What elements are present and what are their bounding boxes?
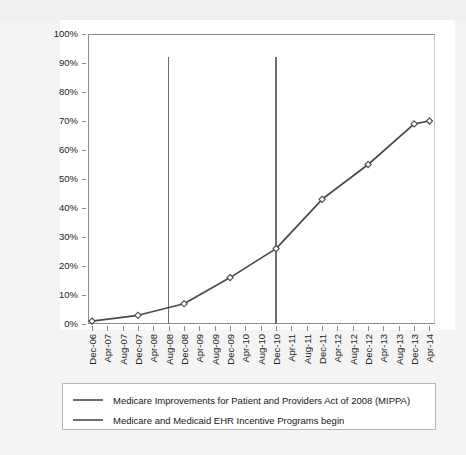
x-tick-label: Dec-06 (87, 334, 98, 365)
x-tick-mark (245, 326, 246, 331)
x-tick-label: Apr-07 (102, 334, 113, 363)
x-tick-label: Aug-13 (394, 334, 405, 365)
x-tick-mark (92, 326, 93, 331)
x-tick-label: Apr-12 (332, 334, 343, 363)
x-tick-label: Apr-08 (148, 334, 159, 363)
y-axis: 0%10%20%30%40%50%60%70%80%90%100% (34, 26, 86, 332)
x-tick-mark (169, 326, 170, 331)
y-tick-label: 0% (64, 319, 78, 329)
y-tick-label: 60% (59, 145, 78, 155)
x-tick-mark (261, 326, 262, 331)
x-tick-mark (138, 326, 139, 331)
y-tick-mark (82, 63, 86, 64)
legend-line-swatch-mippa (73, 399, 103, 401)
x-tick-mark (399, 326, 400, 331)
x-tick-label: Dec-11 (317, 334, 328, 364)
x-tick-label: Aug-12 (348, 334, 359, 365)
legend-item-mippa: Medicare Improvements for Patient and Pr… (73, 393, 410, 407)
y-tick-label: 80% (59, 87, 78, 97)
y-tick-mark (82, 179, 86, 180)
x-tick-mark (383, 326, 384, 331)
x-tick-label: Apr-11 (286, 334, 297, 362)
x-tick-label: Dec-10 (271, 334, 282, 365)
y-tick-mark (82, 121, 86, 122)
y-tick-label: 30% (59, 232, 78, 242)
x-tick-mark (429, 326, 430, 331)
data-point-marker (426, 118, 432, 124)
x-tick-label: Dec-09 (225, 334, 236, 365)
x-tick-mark (123, 326, 124, 331)
x-tick-mark (368, 326, 369, 331)
y-tick-label: 50% (59, 174, 78, 184)
y-tick-mark (82, 237, 86, 238)
legend-label-ehr-incentive: Medicare and Medicaid EHR Incentive Prog… (113, 415, 344, 426)
y-tick-label: 10% (59, 290, 78, 300)
x-tick-label: Aug-10 (256, 334, 267, 365)
y-tick-mark (82, 324, 86, 325)
x-tick-label: Apr-09 (194, 334, 205, 363)
x-tick-mark (107, 326, 108, 331)
chart-legend: Medicare Improvements for Patient and Pr… (62, 383, 436, 430)
x-tick-mark (307, 326, 308, 331)
y-tick-label: 20% (59, 261, 78, 271)
y-tick-mark (82, 295, 86, 296)
x-tick-mark (353, 326, 354, 331)
x-tick-mark (414, 326, 415, 331)
figure-caption (0, 437, 466, 455)
series-line (92, 121, 429, 321)
x-tick-label: Aug-11 (302, 334, 313, 364)
y-tick-label: 90% (59, 58, 78, 68)
y-tick-label: 100% (54, 29, 78, 39)
x-tick-label: Apr-14 (424, 334, 435, 363)
x-tick-label: Aug-08 (164, 334, 175, 365)
figure-top-band (0, 0, 466, 22)
data-point-marker (89, 318, 95, 324)
data-series (88, 34, 435, 324)
x-tick-label: Dec-08 (179, 334, 190, 365)
y-tick-label: 70% (59, 116, 78, 126)
x-tick-mark (291, 326, 292, 331)
x-tick-mark (337, 326, 338, 331)
x-tick-label: Dec-07 (133, 334, 144, 365)
x-tick-label: Apr-10 (240, 334, 251, 363)
x-tick-mark (199, 326, 200, 331)
x-tick-label: Aug-07 (118, 334, 129, 365)
x-tick-label: Aug-09 (210, 334, 221, 365)
x-tick-mark (230, 326, 231, 331)
x-tick-mark (153, 326, 154, 331)
legend-line-swatch-ehr-incentive (73, 419, 103, 421)
x-tick-mark (276, 326, 277, 331)
data-point-marker (135, 312, 141, 318)
y-tick-label: 40% (59, 203, 78, 213)
x-tick-mark (322, 326, 323, 331)
x-tick-mark (184, 326, 185, 331)
legend-label-mippa: Medicare Improvements for Patient and Pr… (113, 395, 410, 406)
x-tick-label: Dec-12 (363, 334, 374, 365)
y-tick-mark (82, 34, 86, 35)
x-tick-label: Apr-13 (378, 334, 389, 363)
x-tick-mark (215, 326, 216, 331)
y-tick-mark (82, 150, 86, 151)
y-tick-mark (82, 92, 86, 93)
chart-figure: 0%10%20%30%40%50%60%70%80%90%100% Dec-06… (0, 0, 466, 455)
y-tick-mark (82, 208, 86, 209)
x-tick-label: Dec-13 (409, 334, 420, 365)
y-tick-mark (82, 266, 86, 267)
legend-item-ehr-incentive: Medicare and Medicaid EHR Incentive Prog… (73, 413, 344, 427)
